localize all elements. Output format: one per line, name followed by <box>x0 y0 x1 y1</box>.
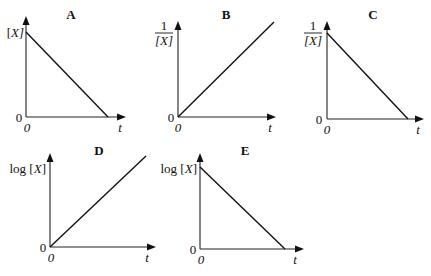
panel-c-x-zero: 0 <box>324 122 331 137</box>
panel-c-y-label-numerator: 1 <box>310 18 317 33</box>
panel-a-x-label: t <box>118 120 122 135</box>
panel-a-data-line <box>26 32 108 117</box>
panel-b-y-zero: 0 <box>168 110 175 125</box>
panel-a-y-label: [X] <box>7 25 24 40</box>
panel-c-y-arrow-icon <box>324 21 331 30</box>
panel-a-title: A <box>66 7 76 22</box>
panel-c: C 1 [X] 0 0 t <box>304 7 424 137</box>
panel-b-x-label: t <box>268 120 272 135</box>
panel-d-title: D <box>94 143 103 158</box>
panel-e-title: E <box>241 143 250 158</box>
panel-d-x-zero: 0 <box>48 250 55 265</box>
panel-e-x-label: t <box>293 252 297 267</box>
panel-b-x-zero: 0 <box>175 120 182 135</box>
charts-figure: A [X] 0 0 t B 1 [X] 0 0 t C 1 [X] 0 <box>0 0 431 276</box>
panel-c-y-label-denominator: [X] <box>304 33 322 48</box>
panel-b-y-label-numerator: 1 <box>161 18 168 33</box>
panel-d-y-arrow-icon <box>47 153 54 162</box>
panel-e: E log [X] 0 0 t <box>161 143 305 267</box>
panel-d: D log [X] 0 0 t <box>10 143 157 265</box>
panel-b: B 1 [X] 0 0 t <box>155 7 276 135</box>
panel-d-y-zero: 0 <box>40 240 47 255</box>
panel-a-x-zero: 0 <box>24 120 31 135</box>
panel-a: A [X] 0 0 t <box>7 7 126 135</box>
panel-a-y-zero: 0 <box>16 110 23 125</box>
panel-e-y-arrow-icon <box>197 153 204 162</box>
panel-b-y-label-denominator: [X] <box>155 33 173 48</box>
panel-a-y-arrow-icon <box>23 16 30 25</box>
panel-d-x-label: t <box>145 250 149 265</box>
panel-d-data-line <box>50 156 146 247</box>
panel-b-title: B <box>222 7 231 22</box>
panel-b-y-arrow-icon <box>175 21 182 30</box>
panel-b-data-line <box>178 22 274 117</box>
panel-e-x-zero: 0 <box>198 252 205 267</box>
panel-d-y-label: log [X] <box>10 161 47 176</box>
panel-c-data-line <box>327 33 408 119</box>
panel-c-x-label: t <box>416 122 420 137</box>
panel-c-title: C <box>368 7 377 22</box>
panel-c-y-zero: 0 <box>316 112 323 127</box>
panel-e-y-zero: 0 <box>190 242 197 257</box>
panel-e-y-label: log [X] <box>161 161 198 176</box>
panel-e-data-line <box>200 167 285 249</box>
